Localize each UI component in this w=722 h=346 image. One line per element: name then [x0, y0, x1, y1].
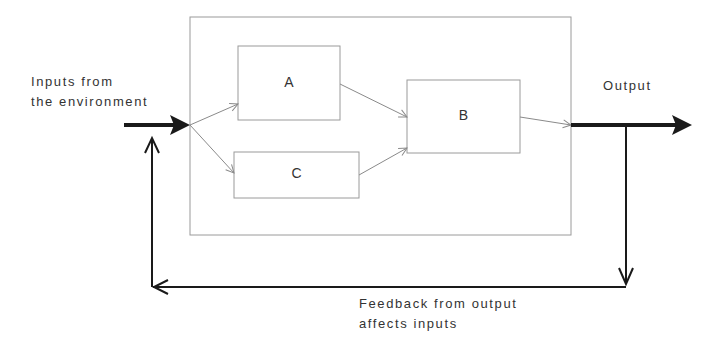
box-b-label: B [407, 107, 520, 123]
output-label: Output [603, 76, 652, 96]
arrow-input-to-c [190, 125, 234, 173]
feedback-label-line2: affects inputs [359, 314, 458, 334]
system-boundary-box [190, 17, 571, 235]
arrow-input-to-a [190, 104, 238, 125]
inputs-label-line2: the environment [31, 92, 148, 112]
box-c-label: C [234, 165, 359, 181]
arrow-c-to-b [359, 148, 407, 175]
arrow-b-to-output [520, 117, 571, 125]
box-a-label: A [238, 74, 340, 90]
feedback-label-line1: Feedback from output [359, 294, 517, 314]
inputs-label-line1: Inputs from [31, 72, 114, 92]
arrow-a-to-b [340, 84, 407, 117]
